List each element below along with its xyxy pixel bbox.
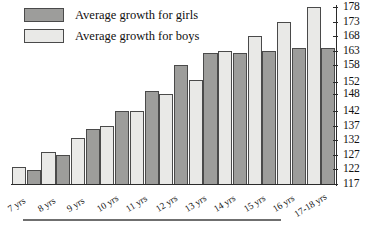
bar-girls <box>145 91 159 184</box>
bar-boys <box>159 94 173 184</box>
y-axis-tick <box>333 22 338 23</box>
y-axis-tick <box>333 82 338 83</box>
x-axis-tick-label: 8 yrs <box>36 196 57 214</box>
bar-girls <box>233 53 247 184</box>
bar-group <box>307 7 336 184</box>
bar-boys <box>307 7 321 184</box>
bar-group <box>41 7 70 184</box>
x-axis-tick-label: 9 yrs <box>65 196 86 214</box>
y-axis-tick-label: 148 <box>343 88 360 99</box>
x-axis-tick-label: 14 yrs <box>212 193 237 214</box>
x-axis-tick-label: 13 yrs <box>183 193 208 214</box>
bar-girls <box>86 129 100 184</box>
bar-boys <box>189 80 203 184</box>
bar-boys <box>12 167 26 184</box>
x-axis-tick-label: 11 yrs <box>124 193 149 214</box>
y-axis-tick <box>333 65 338 66</box>
y-axis-tick-label: 163 <box>343 45 360 56</box>
bar-girls <box>56 155 70 184</box>
x-axis-tick-label: 10 yrs <box>95 193 120 214</box>
bar-boys <box>100 126 114 184</box>
bar-group <box>130 7 159 184</box>
bar-girls <box>174 65 188 184</box>
y-axis-line <box>336 5 337 186</box>
y-axis-tick-label: 142 <box>343 105 360 116</box>
x-axis-tick-label: 7 yrs <box>6 196 27 214</box>
y-axis-tick <box>333 7 338 8</box>
bar-group <box>159 7 188 184</box>
y-axis-tick <box>333 36 338 37</box>
y-axis-tick-label: 152 <box>343 76 360 87</box>
plot-area <box>12 7 336 184</box>
y-axis-tick-label: 117 <box>343 178 359 189</box>
y-axis-tick-label: 158 <box>343 59 360 70</box>
bottom-rule <box>23 219 281 221</box>
bar-boys <box>218 51 232 184</box>
y-axis-tick <box>333 140 338 141</box>
y-axis-tick-label: 168 <box>343 30 360 41</box>
y-axis-tick <box>333 94 338 95</box>
x-axis-line <box>11 184 337 185</box>
x-axis-tick-label: 17-18 yrs <box>292 192 328 220</box>
bar-boys <box>248 36 262 184</box>
x-axis-tick-label: 12 yrs <box>154 193 179 214</box>
bar-girls <box>115 111 129 184</box>
bar-boys <box>71 138 85 184</box>
bar-boys <box>277 22 291 184</box>
bar-group <box>100 7 129 184</box>
bar-girls <box>262 51 276 184</box>
bar-group <box>189 7 218 184</box>
y-axis-tick <box>333 169 338 170</box>
bar-girls <box>292 48 306 184</box>
bar-chart: Average growth for girls Average growth … <box>0 0 373 228</box>
y-axis-tick <box>333 126 338 127</box>
bar-girls <box>203 53 217 184</box>
y-axis-tick-label: 122 <box>343 163 360 174</box>
bar-group <box>218 7 247 184</box>
y-axis-tick <box>333 184 338 185</box>
y-axis-tick <box>333 155 338 156</box>
y-axis-tick-label: 178 <box>343 1 360 12</box>
y-axis-tick <box>333 111 338 112</box>
y-axis-tick-label: 137 <box>343 120 360 131</box>
bar-group <box>12 7 41 184</box>
bar-boys <box>130 111 144 184</box>
bar-girls <box>321 48 335 184</box>
bar-girls <box>27 170 41 185</box>
y-axis-tick <box>333 51 338 52</box>
bar-group <box>248 7 277 184</box>
bar-group <box>71 7 100 184</box>
y-axis-tick-label: 173 <box>343 16 360 27</box>
y-axis-tick-label: 127 <box>343 149 360 160</box>
bar-boys <box>41 152 55 184</box>
y-axis-tick-label: 132 <box>343 134 360 145</box>
bar-group <box>277 7 306 184</box>
x-axis-tick-label: 15 yrs <box>242 193 267 214</box>
